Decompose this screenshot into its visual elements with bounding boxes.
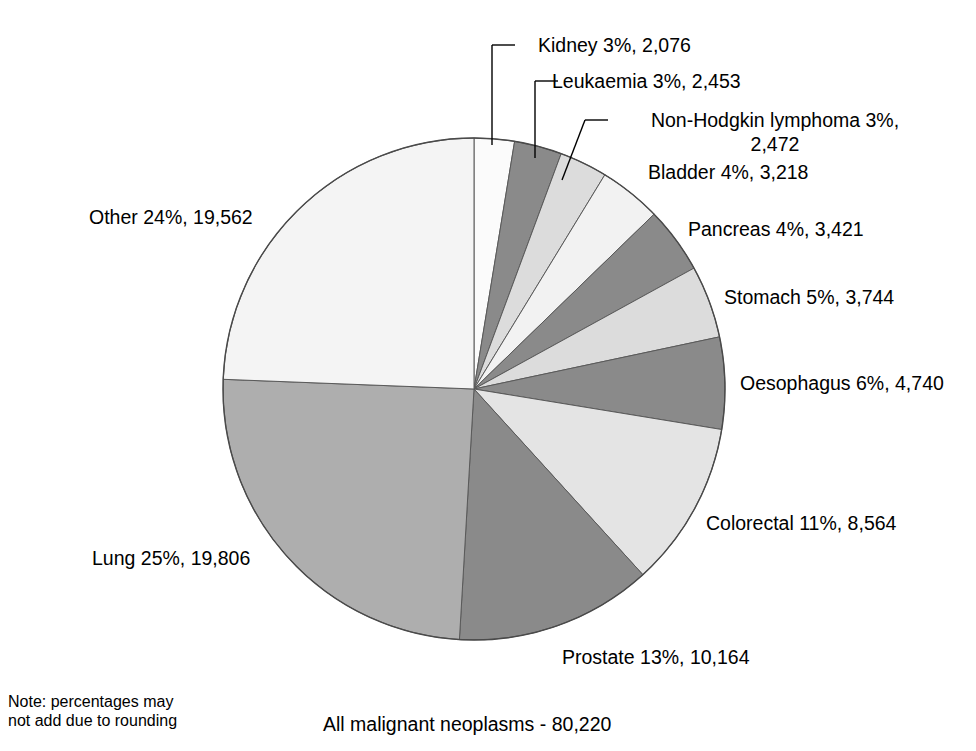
slice-label-colorectal: Colorectal 11%, 8,564: [706, 511, 896, 535]
chart-title: All malignant neoplasms - 80,220: [323, 713, 611, 736]
pie-slice-lung[interactable]: [223, 379, 474, 639]
slice-label-lung: Lung 25%, 19,806: [92, 546, 250, 570]
slice-label-non-hodgkin-line1: Non-Hodgkin lymphoma 3%,: [651, 109, 899, 131]
pie-slice-group: [223, 138, 725, 640]
slice-label-stomach: Stomach 5%, 3,744: [724, 285, 894, 309]
slice-label-bladder: Bladder 4%, 3,218: [648, 160, 808, 184]
chart-page: Kidney 3%, 2,076 Leukaemia 3%, 2,453 Non…: [0, 0, 976, 751]
slice-label-non-hodgkin-lymphoma: Non-Hodgkin lymphoma 3%, 2,472: [612, 108, 938, 156]
slice-label-pancreas: Pancreas 4%, 3,421: [688, 217, 864, 241]
pie-slice-other[interactable]: [223, 138, 474, 389]
slice-label-other: Other 24%, 19,562: [89, 205, 253, 229]
slice-label-non-hodgkin-line2: 2,472: [751, 133, 800, 155]
slice-label-leukaemia: Leukaemia 3%, 2,453: [552, 69, 741, 93]
slice-label-prostate: Prostate 13%, 10,164: [562, 645, 750, 669]
slice-label-oesophagus: Oesophagus 6%, 4,740: [740, 371, 944, 395]
slice-label-kidney: Kidney 3%, 2,076: [538, 33, 691, 57]
rounding-note: Note: percentages may not add due to rou…: [8, 692, 177, 730]
